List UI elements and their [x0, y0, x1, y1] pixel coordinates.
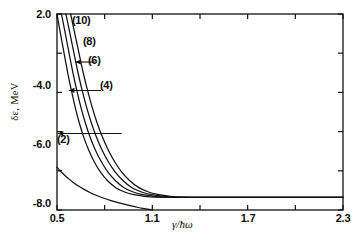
figure-canvas: 2.0-4.0-6.0-8.0 0.51.11.72.3 (10)(8)(6)(… — [0, 0, 357, 241]
curve-8 — [66, 14, 343, 197]
curve-label-2: (2) — [57, 133, 70, 145]
curve-label-6: (6) — [88, 54, 101, 66]
data-curves — [57, 14, 343, 210]
curve-label-10: (10) — [72, 14, 90, 26]
x-tick-label: 2.3 — [329, 212, 357, 224]
y-axis-label: δε, MeV — [9, 72, 20, 132]
y-tick-label: -8.0 — [4, 197, 51, 209]
x-axis-label: γ/ħω — [172, 218, 193, 230]
y-tick-label: 2.0 — [4, 8, 51, 20]
curve-2 — [57, 167, 152, 210]
y-tick-label: -6.0 — [4, 138, 51, 150]
curve-4 — [57, 14, 343, 197]
axis-ticks — [57, 14, 343, 210]
curve-6 — [61, 14, 343, 197]
x-tick-label: 0.5 — [43, 212, 71, 224]
plot-frame — [57, 14, 343, 210]
x-tick-label: 1.1 — [138, 212, 166, 224]
curve-10 — [71, 14, 343, 197]
arrow-6 — [69, 88, 101, 93]
x-tick-label: 1.7 — [234, 212, 262, 224]
curve-label-4: (4) — [100, 79, 113, 91]
plot-svg — [0, 0, 357, 241]
axes-frame — [57, 14, 343, 210]
curve-label-8: (8) — [83, 35, 96, 47]
